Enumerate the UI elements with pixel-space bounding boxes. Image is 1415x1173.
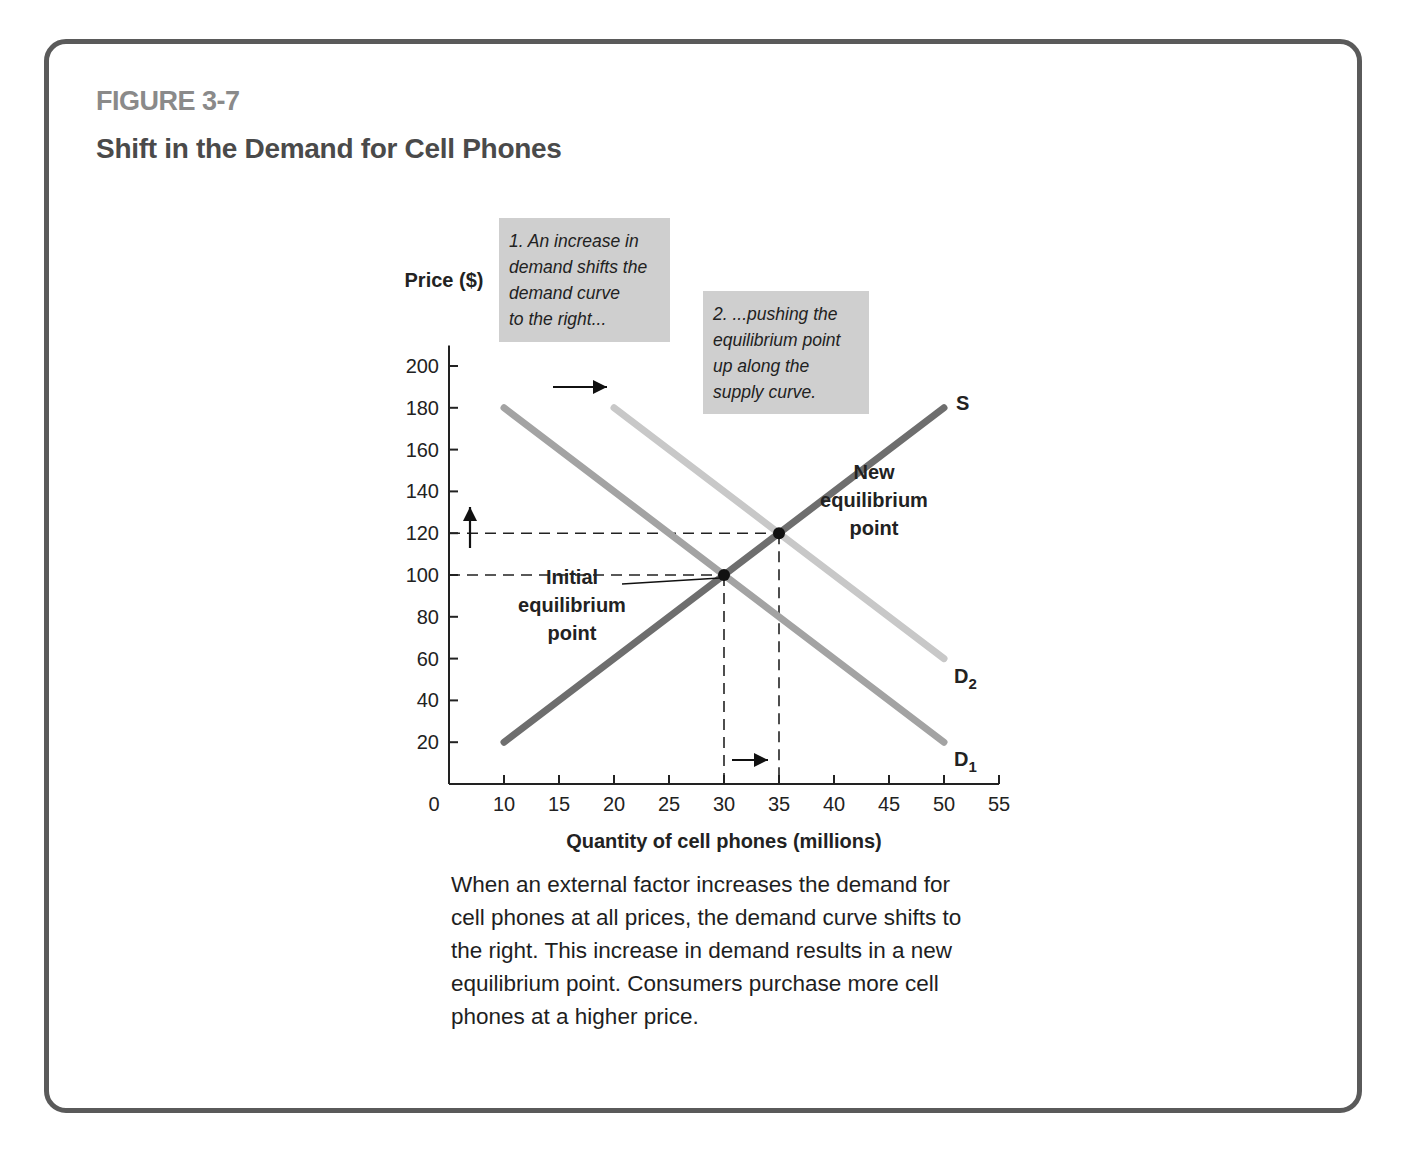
y-tick-label: 100	[406, 564, 439, 586]
y-tick-label: 80	[417, 606, 439, 628]
y-tick-label: 20	[417, 731, 439, 753]
note-line: up along the	[713, 353, 859, 379]
y-axis-label: Price ($)	[405, 269, 484, 291]
note-line: supply curve.	[713, 379, 859, 405]
price-increase-arrow-icon-head	[463, 507, 477, 521]
new-equilibrium-label: New	[853, 461, 895, 483]
x-tick-label: 55	[988, 793, 1010, 815]
x-tick-label: 25	[658, 793, 680, 815]
note-line: to the right...	[509, 306, 660, 332]
x-axis-label: Quantity of cell phones (millions)	[566, 830, 882, 852]
equilibrium-point-new	[773, 527, 785, 539]
x-tick-label: 35	[768, 793, 790, 815]
note-line: demand curve	[509, 280, 660, 306]
y-tick-label: 180	[406, 397, 439, 419]
demand-shift-arrow-icon-head	[593, 380, 607, 394]
y-tick-label: 40	[417, 689, 439, 711]
y-tick-label: 200	[406, 355, 439, 377]
new-equilibrium-label: equilibrium	[820, 489, 928, 511]
y-tick-label: 120	[406, 522, 439, 544]
x-tick-label: 15	[548, 793, 570, 815]
y-tick-label: 140	[406, 480, 439, 502]
curve-label-d1: D1	[954, 748, 977, 775]
initial-equilibrium-label: equilibrium	[518, 594, 626, 616]
note-line: 1. An increase in	[509, 228, 660, 254]
x-tick-label: 45	[878, 793, 900, 815]
x-tick-label: 50	[933, 793, 955, 815]
initial-equilibrium-label: Initial	[546, 566, 598, 588]
figure-caption: When an external factor increases the de…	[451, 868, 971, 1033]
annotation-equilibrium-push: 2. ...pushing the equilibrium point up a…	[703, 291, 869, 414]
new-equilibrium-label: point	[850, 517, 899, 539]
initial-equilibrium-leader	[622, 578, 720, 584]
note-line: 2. ...pushing the	[713, 301, 859, 327]
note-line: equilibrium point	[713, 327, 859, 353]
quantity-increase-arrow-icon-head	[754, 753, 768, 767]
annotation-demand-shift: 1. An increase in demand shifts the dema…	[499, 218, 670, 342]
note-line: demand shifts the	[509, 254, 660, 280]
x-tick-label: 20	[603, 793, 625, 815]
curve-label-s: S	[956, 392, 969, 414]
equilibrium-point-initial	[718, 569, 730, 581]
y-tick-label: 160	[406, 439, 439, 461]
curve-label-d2: D2	[954, 665, 977, 692]
x-tick-label: 10	[493, 793, 515, 815]
x-tick-label: 30	[713, 793, 735, 815]
x-origin-label: 0	[428, 793, 439, 815]
initial-equilibrium-label: point	[548, 622, 597, 644]
y-tick-label: 60	[417, 648, 439, 670]
x-tick-label: 40	[823, 793, 845, 815]
